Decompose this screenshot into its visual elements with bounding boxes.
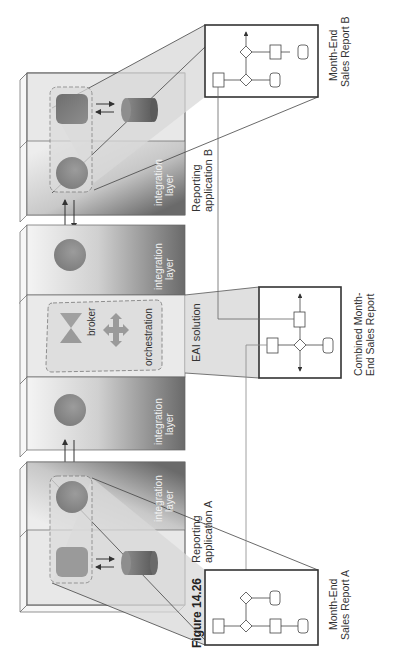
upper-integration-ball-icon	[54, 239, 86, 271]
upper-integration-slab: integrationlayer	[20, 225, 185, 304]
app-a-label: Reporting	[190, 515, 202, 563]
lower-integration-ball-icon	[54, 394, 86, 426]
app-a-database-icon	[121, 551, 158, 575]
eai-diagram: integrationlayer Reportingapplication B …	[0, 0, 396, 662]
lower-integration-slab: integrationlayer	[20, 377, 185, 457]
report-b-flowchart	[205, 25, 318, 97]
orchestration-label: orchestration	[143, 308, 154, 366]
combined-report-label: Combined Month-End Sales Report	[352, 292, 376, 376]
app-b-ui-box-icon	[56, 94, 88, 124]
eai-label: EAI solution	[190, 303, 202, 362]
svg-text:Reportingapplication B: Reportingapplication B	[190, 149, 214, 212]
app-a-ui-box-icon	[56, 547, 88, 577]
connector-report-a	[246, 345, 267, 592]
broker-label: broker	[86, 307, 97, 336]
figure-caption: Figure 14.26	[190, 578, 204, 648]
app-a-integration-ball-icon	[56, 481, 88, 513]
app-b-label: Reporting	[190, 164, 202, 212]
report-b-label: Month-EndSales Report B	[327, 16, 351, 87]
combined-report-flowchart	[259, 287, 341, 378]
report-a-label: Month-EndSales Report A	[327, 570, 351, 640]
svg-text:Reportingapplication A: Reportingapplication A	[190, 500, 214, 563]
app-b-database-icon	[121, 98, 158, 122]
report-a-flowchart	[205, 570, 318, 645]
app-b-integration-ball-icon	[56, 157, 88, 189]
connector-report-b	[218, 87, 294, 319]
